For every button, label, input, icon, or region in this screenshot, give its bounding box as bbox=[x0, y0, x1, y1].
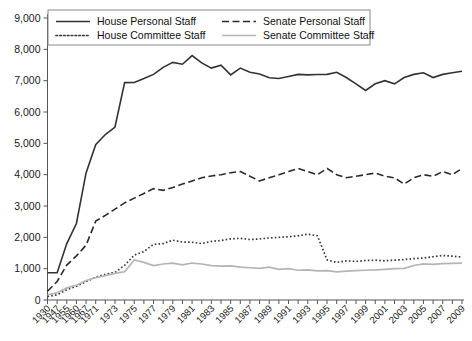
chart-legend: House Personal StaffSenate Personal Staf… bbox=[48, 10, 374, 45]
series-line-house-personal-staff bbox=[48, 56, 463, 273]
x-tick-label: 1981 bbox=[174, 303, 197, 326]
y-tick-label: 1,000 bbox=[14, 262, 40, 274]
x-axis: 1930194719551960196719711973197519771979… bbox=[30, 300, 467, 325]
legend-label: House Committee Staff bbox=[97, 29, 205, 41]
x-tick-label: 1999 bbox=[348, 303, 371, 326]
x-tick-label: 1979 bbox=[155, 303, 178, 326]
y-tick-label: 5,000 bbox=[14, 137, 40, 149]
series-line-senate-personal-staff bbox=[48, 168, 463, 291]
x-tick-label: 2007 bbox=[425, 303, 448, 326]
x-tick-label: 2003 bbox=[386, 303, 409, 326]
legend-label: Senate Personal Staff bbox=[263, 15, 365, 27]
y-tick-label: 2,000 bbox=[14, 231, 40, 243]
y-tick-label: 9,000 bbox=[14, 12, 40, 24]
x-tick-label: 1985 bbox=[213, 303, 236, 326]
x-tick-label: 1993 bbox=[290, 303, 313, 326]
y-tick-label: 8,000 bbox=[14, 43, 40, 55]
x-tick-label: 1997 bbox=[329, 303, 352, 326]
series-line-senate-committee-staff bbox=[48, 260, 463, 295]
y-tick-label: 4,000 bbox=[14, 168, 40, 180]
line-chart: 01,0002,0003,0004,0005,0006,0007,0008,00… bbox=[0, 0, 472, 341]
series-lines bbox=[48, 56, 463, 297]
x-tick-label: 1977 bbox=[136, 303, 159, 326]
x-tick-label: 2001 bbox=[367, 303, 390, 326]
x-tick-label: 1975 bbox=[116, 303, 139, 326]
y-axis: 01,0002,0003,0004,0005,0006,0007,0008,00… bbox=[14, 12, 47, 306]
x-tick-label: 1989 bbox=[251, 303, 274, 326]
x-tick-label: 2009 bbox=[444, 303, 467, 326]
y-tick-label: 6,000 bbox=[14, 106, 40, 118]
x-tick-label: 1973 bbox=[97, 303, 120, 326]
x-tick-label: 1987 bbox=[232, 303, 255, 326]
x-tick-label: 2005 bbox=[406, 303, 429, 326]
y-tick-label: 0 bbox=[35, 294, 41, 306]
y-tick-label: 3,000 bbox=[14, 200, 40, 212]
x-tick-label: 1983 bbox=[194, 303, 217, 326]
series-line-house-committee-staff bbox=[48, 234, 463, 296]
x-tick-label: 1995 bbox=[309, 303, 332, 326]
legend-label: Senate Committee Staff bbox=[263, 29, 374, 41]
chart-container: 01,0002,0003,0004,0005,0006,0007,0008,00… bbox=[0, 0, 472, 341]
legend-label: House Personal Staff bbox=[97, 15, 196, 27]
y-tick-label: 7,000 bbox=[14, 74, 40, 86]
x-tick-label: 1991 bbox=[271, 303, 294, 326]
